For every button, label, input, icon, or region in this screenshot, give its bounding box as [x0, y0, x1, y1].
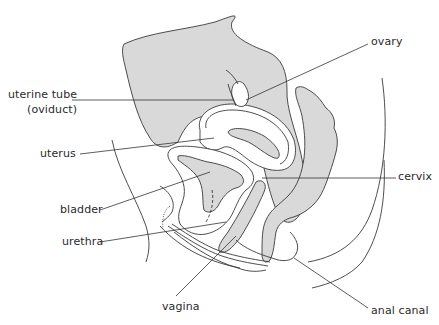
label-bladder: bladder — [60, 203, 103, 216]
pelvis-diagram — [0, 0, 439, 325]
label-oviduct: (oviduct) — [27, 103, 77, 116]
anterior-abdominal-wall — [112, 140, 149, 262]
label-ovary: ovary — [371, 35, 403, 48]
leader-anal-canal — [294, 258, 368, 308]
label-urethra: urethra — [62, 235, 103, 248]
label-vagina: vagina — [162, 300, 200, 313]
label-cervix: cervix — [398, 170, 432, 183]
label-uterus: uterus — [40, 147, 76, 160]
label-anal-canal: anal canal — [371, 304, 429, 317]
label-uterine-tube: uterine tube — [8, 88, 77, 101]
